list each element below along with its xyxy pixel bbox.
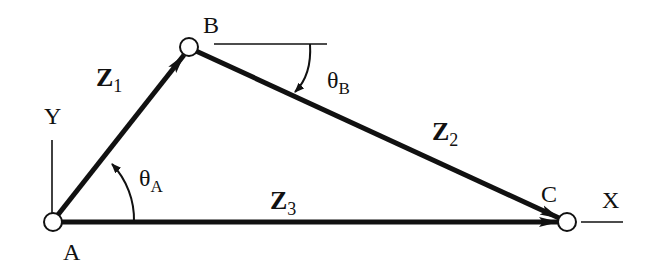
label-z2: Z2 <box>432 117 458 150</box>
label-theta-a: θA <box>139 165 164 196</box>
label-z3: Z3 <box>270 186 296 219</box>
label-theta-a-sub: A <box>151 177 164 196</box>
label-theta-b-sub: B <box>339 79 350 98</box>
label-z2-base: Z <box>432 117 449 146</box>
label-z2-sub: 2 <box>449 130 458 150</box>
label-theta-a-base: θ <box>139 165 151 191</box>
label-z1-base: Z <box>96 63 113 92</box>
node-c <box>558 213 576 231</box>
node-a <box>44 213 62 231</box>
theta-a-arc <box>112 164 134 222</box>
linkage-diagram: A B C Y X Z1 Z2 Z3 θA θB <box>0 0 654 272</box>
label-b: B <box>203 12 219 38</box>
label-x: X <box>602 187 619 213</box>
theta-b-arc <box>295 44 310 92</box>
label-theta-b: θB <box>327 67 350 98</box>
node-b <box>180 38 198 56</box>
label-c: C <box>541 181 557 207</box>
label-theta-b-base: θ <box>327 67 339 93</box>
label-y: Y <box>44 103 61 129</box>
vector-z2 <box>196 51 559 218</box>
label-z1-sub: 1 <box>113 76 122 96</box>
label-z1: Z1 <box>96 63 122 96</box>
label-a: A <box>63 239 81 265</box>
label-z3-sub: 3 <box>287 199 296 219</box>
label-z3-base: Z <box>270 186 287 215</box>
